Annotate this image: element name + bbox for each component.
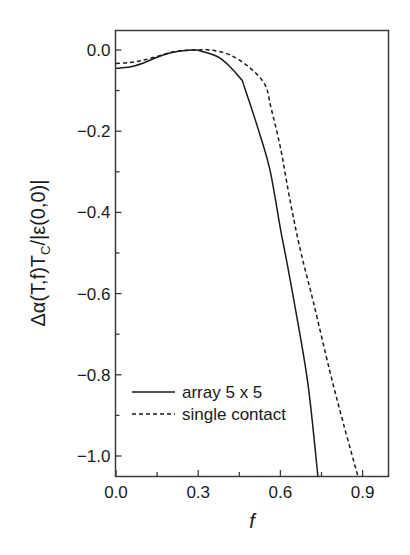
y-axis-title-tail: /|ε(0,0)| xyxy=(27,180,49,246)
x-tick-label: 0.9 xyxy=(351,483,375,502)
y-tick-label: −1.0 xyxy=(77,447,111,466)
y-axis-title-main: Δα(T,f)T xyxy=(27,255,49,327)
background xyxy=(0,0,410,555)
y-axis-title-subscript: C xyxy=(38,246,53,255)
legend-label-array: array 5 x 5 xyxy=(182,383,262,402)
legend-label-single-contact: single contact xyxy=(182,405,286,424)
y-tick-label: −0.2 xyxy=(77,122,111,141)
y-tick-label: −0.4 xyxy=(77,203,111,222)
x-tick-label: 0.0 xyxy=(104,483,128,502)
y-tick-label: 0.0 xyxy=(87,41,111,60)
x-tick-label: 0.3 xyxy=(186,483,210,502)
chart: 0.00.30.60.90.0−0.2−0.4−0.6−0.8−1.0 arra… xyxy=(0,0,410,555)
y-tick-label: −0.8 xyxy=(77,366,111,385)
y-tick-label: −0.6 xyxy=(77,285,111,304)
x-tick-label: 0.6 xyxy=(269,483,293,502)
